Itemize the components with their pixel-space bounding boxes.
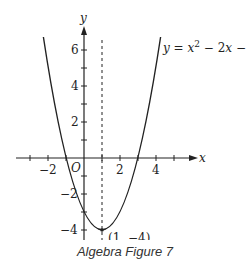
y-tick-label: 2 (71, 115, 79, 129)
vertex-label: (1, −4) (108, 231, 150, 240)
figure-caption: Algebra Figure 7 (0, 244, 250, 259)
x-tick-label: 2 (116, 163, 124, 177)
x-axis: x −2 2 4 (16, 151, 206, 177)
y-axis: y 6 4 2 −2 −4 O (60, 11, 87, 240)
origin-label: O (71, 161, 81, 175)
x-tick-label: 4 (152, 163, 160, 177)
vertex-point (100, 228, 104, 232)
x-axis-label: x (199, 151, 206, 165)
y-axis-label: y (79, 11, 87, 25)
y-tick-label: 6 (71, 43, 79, 57)
x-tick-label: −2 (39, 163, 57, 177)
y-tick-label: −4 (60, 223, 78, 237)
parabola-graph: x −2 2 4 y 6 4 2 −2 −4 O (1, −4) (0, 0, 250, 240)
equation-label: y = x2 − 2x − 3 (162, 39, 250, 55)
y-tick-label: 4 (71, 79, 79, 93)
